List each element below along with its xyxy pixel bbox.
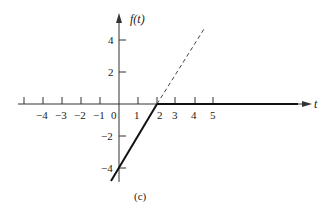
y-axis-arrow-icon	[116, 13, 122, 23]
x-tick-label: −1	[93, 109, 105, 121]
x-axis-label: t	[314, 97, 318, 111]
x-tick-label: 2	[157, 109, 163, 121]
x-tick-label: 1	[134, 109, 140, 121]
x-tick-label: 3	[172, 109, 178, 121]
y-tick-label: 4	[108, 34, 114, 46]
y-tick-label: −4	[101, 162, 113, 174]
x-tick-label: 0	[111, 109, 117, 121]
x-tick-label: −2	[74, 109, 86, 121]
y-tick-label: −2	[101, 130, 113, 142]
x-tick-label: 4	[191, 109, 197, 121]
x-tick-label: −4	[36, 109, 48, 121]
figure-caption: (c)	[134, 190, 147, 203]
dashed-extension-line	[157, 29, 204, 104]
x-tick-label: −3	[55, 109, 67, 121]
x-axis-arrow-icon	[302, 101, 312, 107]
x-tick-label: 5	[210, 109, 216, 121]
y-axis-label: f(t)	[130, 12, 145, 26]
chart-canvas: −4 −3 −2 −1 0 1 2 3 4 5 4 2 −2 −4 f(t) t…	[0, 0, 321, 209]
y-tick-label: 2	[108, 66, 114, 78]
